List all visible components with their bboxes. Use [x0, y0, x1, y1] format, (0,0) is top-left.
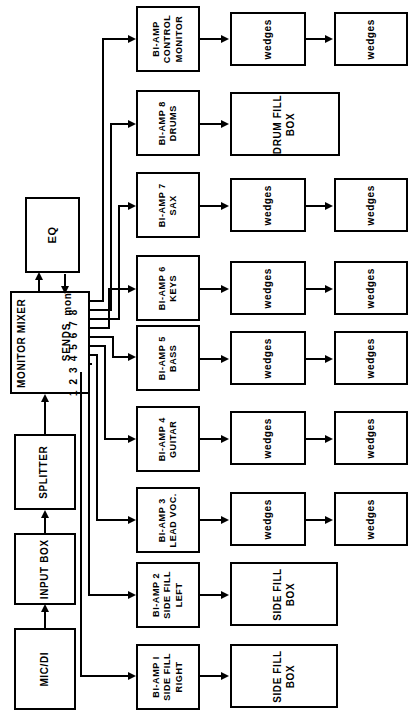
arrowhead-speaker-to-speaker-r5 — [325, 355, 333, 363]
arrowhead-splitter-to-mixer — [41, 394, 49, 402]
block-bi-amp-5-bass[interactable]: BI-AMP 5 BASS — [136, 325, 200, 391]
wire-send-1-v — [80, 372, 82, 677]
block-bi-amp-6-keys[interactable]: BI-AMP 6 KEYS — [136, 255, 200, 321]
block-speaker-wedges-r3b[interactable]: wedges — [334, 178, 408, 232]
block-side-fill-box-left[interactable]: SIDE FILL BOX — [230, 562, 338, 626]
wide-box-line2: BOX — [285, 94, 298, 153]
block-splitter-label: SPLITTER — [39, 445, 52, 498]
wire-send-5-h1 — [90, 336, 114, 338]
wire-send-2-h1 — [90, 363, 92, 365]
mixer-mon-label: mon — [62, 292, 73, 316]
block-splitter[interactable]: SPLITTER — [14, 434, 76, 510]
block-monitor-mixer-label: MONITOR MIXER — [17, 298, 30, 387]
arrowhead-speaker-to-speaker-r3 — [325, 202, 333, 210]
amp-line1: BI-AMP 8 — [157, 101, 168, 145]
block-bi-amp-8-drums[interactable]: BI-AMP 8 DRUMS — [136, 90, 200, 156]
block-speaker-wedges-r5a[interactable]: wedges — [230, 331, 306, 385]
block-drum-fill-box[interactable]: DRUM FILL BOX — [230, 92, 340, 156]
arrowhead-amp-to-speaker-r5a — [221, 355, 229, 363]
amp-line2: LEAD VOC. — [168, 493, 179, 547]
amp-line2: CONTROL — [162, 15, 173, 64]
mixer-send-numbers-group: 1 2 3 4 5 6 7 8 — [65, 319, 81, 385]
block-speaker-wedges-r4a[interactable]: wedges — [230, 261, 306, 315]
block-input-box[interactable]: INPUT BOX — [14, 533, 76, 605]
block-input-box-label: INPUT BOX — [39, 539, 52, 599]
speaker-label: wedges — [262, 185, 275, 225]
wire-send-4-h2 — [104, 438, 130, 440]
speaker-label: wedges — [262, 19, 275, 59]
arrowhead-send-mon — [128, 35, 136, 43]
block-bi-amp-1-side-fill-right[interactable]: BI-AMP I SIDE FILL RIGHT — [136, 644, 200, 710]
block-speaker-wedges-r6a[interactable]: wedges — [230, 411, 306, 465]
arrowhead-mic-to-inputbox — [41, 604, 49, 612]
arrowhead-amp-to-box-r2 — [221, 120, 229, 128]
arrowhead-amp-to-speaker-r3a — [221, 202, 229, 210]
block-speaker-wedges-r5b[interactable]: wedges — [334, 331, 408, 385]
block-mic-di[interactable]: MIC/DI — [14, 628, 76, 710]
block-bi-amp-4-guitar[interactable]: BI-AMP 4 GUITAR — [136, 406, 200, 472]
wire-send-3-h2 — [96, 519, 130, 521]
block-speaker-wedges-r6b[interactable]: wedges — [334, 411, 408, 465]
amp-line1: BI-AMP 5 — [157, 336, 168, 380]
arrowhead-amp-to-speaker-r6a — [221, 435, 229, 443]
block-speaker-wedges-r1b[interactable]: wedges — [334, 12, 408, 66]
arrowhead-amp-to-speaker-r4a — [221, 285, 229, 293]
arrowhead-send-1 — [128, 672, 136, 680]
wire-send-6-h2 — [108, 288, 130, 290]
wide-box-line2: BOX — [284, 650, 297, 703]
amp-line2: DRUMS — [168, 101, 179, 145]
speaker-label: wedges — [262, 418, 275, 458]
block-eq-label: EQ — [46, 226, 60, 243]
amp-line1: BI-AMP — [151, 15, 162, 64]
arrowhead-send-5 — [128, 353, 136, 361]
wire-send-7-v — [118, 205, 120, 320]
amp-line3: MONITOR — [174, 15, 185, 64]
speaker-label: wedges — [262, 338, 275, 378]
arrowhead-send-7 — [128, 202, 136, 210]
amp-line1: BI-AMP I — [151, 653, 162, 701]
speaker-label: wedges — [365, 418, 378, 458]
speaker-label: wedges — [262, 499, 275, 539]
block-side-fill-box-right[interactable]: SIDE FILL BOX — [230, 644, 338, 708]
arrowhead-mixer-to-eq — [35, 272, 43, 280]
amp-line2: BASS — [168, 336, 179, 380]
block-bi-amp-control-monitor[interactable]: BI-AMP CONTROL MONITOR — [136, 6, 200, 72]
arrowhead-send-6 — [128, 285, 136, 293]
amp-line1: BI-AMP 4 — [157, 417, 168, 461]
wire-send-1-h2 — [80, 675, 130, 677]
speaker-label: wedges — [262, 268, 275, 308]
amp-line1: BI-AMP 2 — [151, 571, 162, 619]
signal-flow-diagram: MIC/DI INPUT BOX SPLITTER MONITOR MIXER … — [0, 0, 412, 720]
wire-send-6-h1 — [90, 327, 110, 329]
wire-send-8-h2 — [110, 123, 130, 125]
mixer-send-numbers: 1 2 3 4 5 6 7 8 — [68, 308, 79, 396]
wide-box-line1: SIDE FILL — [272, 568, 285, 621]
arrowhead-eq-to-mixer — [61, 286, 69, 294]
block-speaker-wedges-r7b[interactable]: wedges — [334, 492, 408, 546]
block-speaker-wedges-r7a[interactable]: wedges — [230, 492, 306, 546]
wire-send-mon-h2 — [102, 38, 130, 40]
amp-line1: BI-AMP 3 — [157, 493, 168, 547]
block-speaker-wedges-r3a[interactable]: wedges — [230, 178, 306, 232]
wide-box-line1: SIDE FILL — [272, 650, 285, 703]
wire-send-5-v — [112, 336, 114, 358]
amp-line1: BI-AMP 6 — [157, 266, 168, 310]
block-bi-amp-2-side-fill-left[interactable]: BI-AMP 2 SIDE FILL LEFT — [136, 562, 200, 628]
arrowhead-amp-to-speaker-r7a — [221, 516, 229, 524]
block-speaker-wedges-r1a[interactable]: wedges — [230, 12, 306, 66]
wide-box-line2: BOX — [284, 568, 297, 621]
wire-send-6-v — [108, 288, 110, 329]
wire-send-3-v — [96, 354, 98, 521]
arrowhead-inputbox-to-splitter — [41, 510, 49, 518]
block-bi-amp-7-sax[interactable]: BI-AMP 7 SAX — [136, 172, 200, 238]
speaker-label: wedges — [365, 499, 378, 539]
speaker-label: wedges — [365, 338, 378, 378]
wire-splitter-to-mixer — [44, 398, 46, 436]
arrowhead-amp-to-box-r8 — [221, 591, 229, 599]
wire-send-2-h2 — [88, 594, 130, 596]
speaker-label: wedges — [365, 185, 378, 225]
arrowhead-amp-to-speaker-r1a — [221, 35, 229, 43]
block-eq[interactable]: EQ — [25, 197, 80, 273]
block-speaker-wedges-r4b[interactable]: wedges — [334, 261, 408, 315]
block-bi-amp-3-lead-voc[interactable]: BI-AMP 3 LEAD VOC. — [136, 487, 200, 553]
